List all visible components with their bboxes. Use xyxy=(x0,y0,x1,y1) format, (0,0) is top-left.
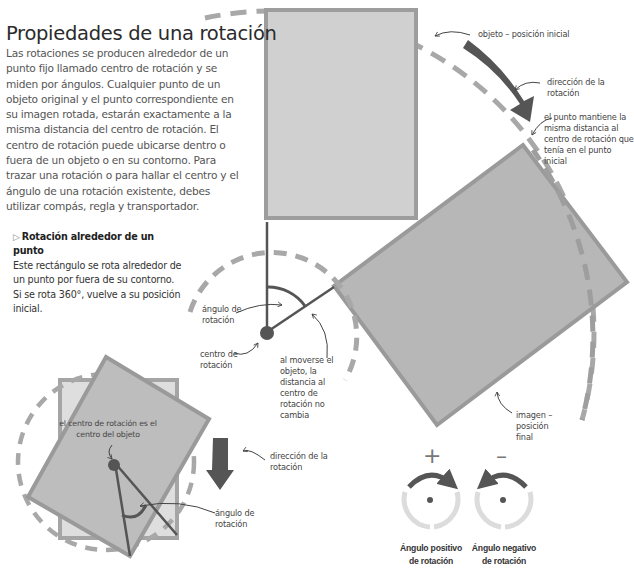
negative-angle-icon xyxy=(477,475,531,527)
label-image-final: imagen – posición final xyxy=(516,410,558,443)
label-center-main: centro de rotación xyxy=(200,349,250,371)
label-angle-main: ángulo de rotación xyxy=(202,304,252,326)
positive-sign: + xyxy=(423,445,441,467)
label-direction-top: dirección de la rotación xyxy=(547,77,617,99)
label-initial-object: objeto – posición inicial xyxy=(478,29,628,40)
subsection: ▷Rotación alrededor de un punto Este rec… xyxy=(13,230,183,316)
subsection-heading: Rotación alrededor de un punto xyxy=(13,231,154,256)
label-distance-unchanged: al moverse el objeto, la distancia al ce… xyxy=(280,355,352,421)
angle-arc-main xyxy=(267,287,305,306)
direction-arrow-large xyxy=(463,40,534,122)
page-title: Propiedades de una rotación xyxy=(6,22,277,45)
negative-sign: – xyxy=(496,445,507,467)
label-direction-small: dirección de la rotación xyxy=(270,451,340,473)
positive-angle-icon xyxy=(404,475,458,527)
intro-paragraph: Las rotaciones se producen alrededor de … xyxy=(6,46,242,214)
label-center-is-object-center: el centro de rotación es el centro del o… xyxy=(58,418,158,440)
triangle-right-icon: ▷ xyxy=(13,232,20,242)
label-point-same-distance: el punto mantiene la misma distancia al … xyxy=(544,112,634,167)
center-point-main xyxy=(260,326,274,340)
caption-positive-angle: Ángulo positivo de rotación xyxy=(395,542,467,568)
subsection-text: Este rectángulo se rota alrededor de un … xyxy=(13,260,181,314)
initial-object-rect xyxy=(266,10,416,218)
label-angle-small: ángulo de rotación xyxy=(215,508,265,530)
direction-arrow-small xyxy=(206,438,234,490)
caption-negative-angle: Ángulo negativo de rotación xyxy=(467,542,541,568)
